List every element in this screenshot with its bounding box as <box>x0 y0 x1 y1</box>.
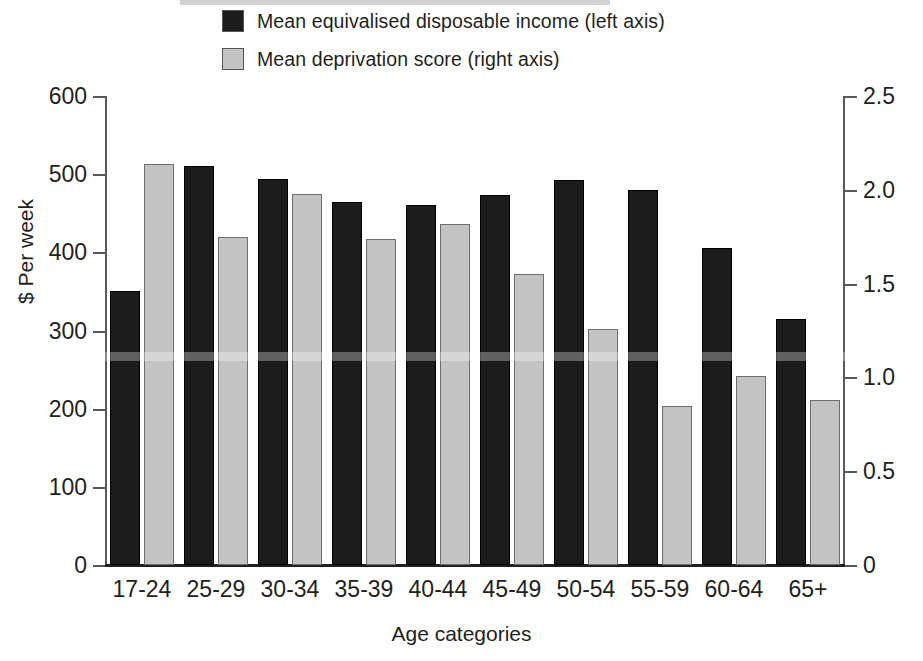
bar-deprivation <box>366 239 396 565</box>
y-tick-label-left: 200 <box>0 398 87 421</box>
bar-income <box>554 180 584 565</box>
bar-group <box>702 96 766 565</box>
bar-group <box>776 96 840 565</box>
y-tick-left <box>93 409 105 411</box>
y-tick-right <box>845 471 857 473</box>
legend-swatch-income <box>222 10 244 32</box>
plot-area <box>105 96 845 565</box>
y-tick-label-left: 100 <box>0 476 87 499</box>
legend-item-income: Mean equivalised disposable income (left… <box>222 8 665 34</box>
y-tick-left <box>93 252 105 254</box>
y-tick-left <box>93 331 105 333</box>
x-category-label: 25-29 <box>179 578 253 601</box>
chart-root: Mean equivalised disposable income (left… <box>0 0 923 661</box>
x-category-label: 30-34 <box>253 578 327 601</box>
bar-income <box>332 202 362 565</box>
chart-legend: Mean equivalised disposable income (left… <box>222 8 665 72</box>
bar-income <box>702 248 732 565</box>
x-category-label: 60-64 <box>697 578 771 601</box>
bar-income <box>406 205 436 565</box>
y-tick-label-right: 2.5 <box>863 85 895 108</box>
bar-deprivation <box>514 274 544 565</box>
bar-deprivation <box>144 164 174 565</box>
y-tick-label-right: 1.5 <box>863 273 895 296</box>
bar-group <box>628 96 692 565</box>
x-category-label: 55-59 <box>623 578 697 601</box>
cropped-title-remnant <box>180 0 610 5</box>
bar-income <box>110 291 140 565</box>
y-tick-label-left: 300 <box>0 320 87 343</box>
bar-income <box>628 190 658 565</box>
y-tick-right <box>845 377 857 379</box>
x-category-label: 50-54 <box>549 578 623 601</box>
x-category-label: 35-39 <box>327 578 401 601</box>
y-tick-left <box>93 487 105 489</box>
bar-group <box>332 96 396 565</box>
bar-group <box>554 96 618 565</box>
bars-layer <box>105 96 845 565</box>
bar-income <box>776 319 806 565</box>
bar-deprivation <box>588 329 618 565</box>
y-axis-title: $ Per week <box>14 104 38 304</box>
bar-group <box>258 96 322 565</box>
legend-label-deprivation: Mean deprivation score (right axis) <box>257 48 560 71</box>
x-axis-title: Age categories <box>0 622 923 646</box>
y-tick-right <box>845 284 857 286</box>
bar-income <box>258 179 288 565</box>
bar-deprivation <box>736 376 766 565</box>
bar-deprivation <box>440 224 470 565</box>
bar-deprivation <box>662 406 692 565</box>
legend-item-deprivation: Mean deprivation score (right axis) <box>222 46 665 72</box>
x-category-label: 17-24 <box>105 578 179 601</box>
bar-deprivation <box>292 194 322 565</box>
y-tick-left <box>93 565 105 567</box>
y-tick-left <box>93 174 105 176</box>
x-category-label: 45-49 <box>475 578 549 601</box>
bar-group <box>406 96 470 565</box>
y-tick-right <box>845 565 857 567</box>
x-category-label: 40-44 <box>401 578 475 601</box>
bar-deprivation <box>810 400 840 565</box>
y-tick-label-right: 2.0 <box>863 179 895 202</box>
y-tick-label-right: 0 <box>863 554 876 577</box>
x-category-label: 65+ <box>771 578 845 601</box>
bar-income <box>184 166 214 565</box>
y-tick-label-right: 1.0 <box>863 366 895 389</box>
y-tick-left <box>93 96 105 98</box>
bar-group <box>480 96 544 565</box>
legend-label-income: Mean equivalised disposable income (left… <box>257 10 665 33</box>
legend-swatch-deprivation <box>222 48 244 70</box>
y-tick-label-left: 0 <box>0 554 87 577</box>
category-labels: 17-2425-2930-3435-3940-4445-4950-5455-59… <box>105 578 845 612</box>
bar-group <box>110 96 174 565</box>
bar-group <box>184 96 248 565</box>
y-tick-label-right: 0.5 <box>863 460 895 483</box>
bar-income <box>480 195 510 566</box>
y-tick-right <box>845 96 857 98</box>
y-tick-right <box>845 190 857 192</box>
bar-deprivation <box>218 237 248 565</box>
